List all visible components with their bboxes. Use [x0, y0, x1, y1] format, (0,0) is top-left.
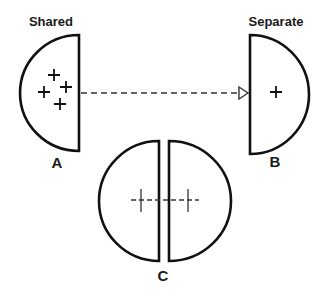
open-arrowhead-icon: [239, 87, 248, 99]
label-shared: Shared: [29, 14, 73, 29]
label-a: A: [52, 154, 63, 171]
label-b: B: [270, 153, 281, 170]
panel-c: [99, 141, 231, 261]
half-disc-c-right: [169, 141, 231, 261]
arrow-a-to-b: [81, 87, 248, 99]
diagram-canvas: Shared Separate A B C: [0, 0, 329, 297]
label-c: C: [158, 267, 169, 284]
half-disc-c-left: [99, 141, 159, 261]
panel-b: [250, 35, 309, 154]
panel-a: [20, 35, 79, 151]
half-disc-b: [250, 35, 309, 154]
half-disc-a: [20, 35, 79, 151]
label-separate: Separate: [249, 14, 304, 29]
